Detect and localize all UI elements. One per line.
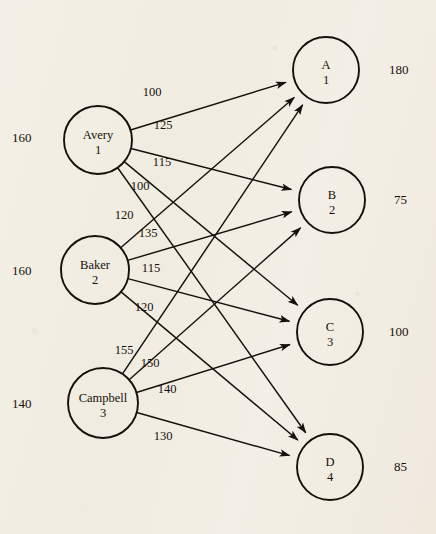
edge-cost-label: 100 (143, 85, 162, 99)
supply-label-baker: 160 (12, 263, 32, 278)
demand-label-d: 85 (394, 459, 407, 474)
edge-avery-to-b: 125 (131, 118, 291, 190)
edge-cost-label: 120 (115, 208, 134, 222)
node-index: 4 (327, 470, 334, 484)
demand-label-c: 100 (389, 324, 409, 339)
node-name: A (321, 58, 330, 72)
node-index: 2 (329, 203, 335, 217)
demand-label-a: 180 (389, 62, 409, 77)
node-index: 1 (323, 73, 329, 87)
demand-label-b: 75 (394, 192, 407, 207)
edge-cost-label: 115 (153, 155, 171, 169)
side-labels-layer: 1601601401807510085 (12, 62, 409, 474)
edge-cost-label: 135 (139, 226, 158, 240)
nodes-layer: Avery1Baker2Campbell3A1B2C3D4 (61, 37, 365, 500)
node-name: Avery (83, 128, 114, 142)
node-name: B (328, 188, 336, 202)
node-name: Baker (80, 258, 111, 272)
supply-label-campbell: 140 (12, 396, 32, 411)
node-index: 3 (327, 335, 333, 349)
node-name: C (326, 320, 334, 334)
edge-cost-label: 120 (135, 300, 154, 314)
destination-node-d[interactable]: D4 (297, 434, 363, 500)
edge-campbell-to-b: 150 (129, 228, 300, 380)
edge-cost-label: 130 (154, 429, 173, 443)
destination-node-a[interactable]: A1 (293, 37, 359, 103)
destination-node-c[interactable]: C3 (297, 299, 363, 365)
source-node-avery[interactable]: Avery1 (64, 106, 132, 174)
network-diagram: 100125115100120135115120155150140130 Ave… (0, 0, 436, 534)
edge-baker-to-b: 135 (128, 212, 292, 260)
node-index: 3 (100, 406, 106, 420)
source-node-campbell[interactable]: Campbell3 (68, 368, 138, 438)
edge-cost-label: 150 (141, 356, 160, 370)
edge-cost-label: 140 (158, 382, 177, 396)
source-node-baker[interactable]: Baker2 (61, 236, 129, 304)
destination-node-b[interactable]: B2 (299, 167, 365, 233)
node-name: D (325, 455, 334, 469)
edge-cost-label: 155 (115, 343, 134, 357)
node-index: 1 (95, 143, 101, 157)
edge-cost-label: 100 (131, 179, 150, 193)
edge-cost-label: 115 (142, 261, 160, 275)
edge-campbell-to-d: 130 (137, 412, 290, 455)
node-name: Campbell (79, 391, 128, 405)
node-index: 2 (92, 273, 98, 287)
edge-cost-label: 125 (154, 118, 173, 132)
supply-label-avery: 160 (12, 130, 32, 145)
edges-layer: 100125115100120135115120155150140130 (115, 82, 306, 455)
